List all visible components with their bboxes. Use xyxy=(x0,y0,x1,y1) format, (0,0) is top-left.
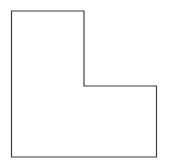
l-shape-diagram xyxy=(0,0,169,168)
l-shape-outline xyxy=(12,11,157,157)
figure-canvas xyxy=(0,0,169,168)
